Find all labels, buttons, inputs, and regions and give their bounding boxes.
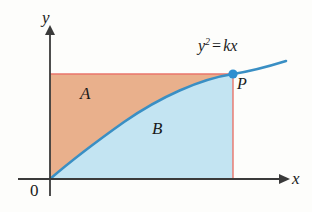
figure-container: y x 0 A B P y2=kx <box>0 0 312 212</box>
origin-label: 0 <box>30 182 39 199</box>
region-a-label: A <box>80 85 90 102</box>
region-b-label: B <box>152 120 162 137</box>
equation-rhs: kx <box>223 37 237 54</box>
point-p-label: P <box>237 76 247 92</box>
x-axis-label: x <box>292 170 300 187</box>
equation-relation: = <box>210 37 223 54</box>
y-axis-label: y <box>42 9 50 26</box>
x-axis-arrowhead <box>279 174 290 184</box>
figure-svg <box>0 0 312 212</box>
curve-equation-label: y2=kx <box>198 38 237 54</box>
